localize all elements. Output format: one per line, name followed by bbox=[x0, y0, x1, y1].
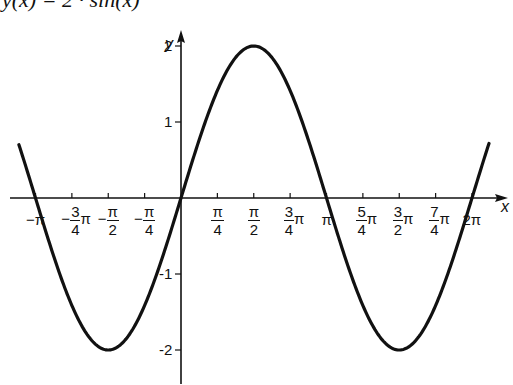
x-tick-label: 74π bbox=[429, 204, 450, 237]
x-tick-label: 34π bbox=[284, 204, 305, 237]
y-tick-label: -2 bbox=[159, 342, 172, 357]
x-axis-label: x bbox=[501, 198, 509, 216]
y-tick-label: 1 bbox=[164, 114, 172, 129]
x-tick-label: π2 bbox=[248, 204, 260, 237]
x-tick-label: −34π bbox=[61, 204, 90, 237]
x-tick-label: −π bbox=[26, 212, 45, 227]
x-tick-label: π bbox=[322, 212, 332, 227]
plot-area bbox=[0, 0, 513, 385]
x-tick-label: −π4 bbox=[134, 204, 155, 237]
y-tick-label: -1 bbox=[159, 266, 172, 281]
x-tick-label: −π2 bbox=[98, 204, 119, 237]
y-axis-label: y bbox=[165, 35, 173, 53]
x-tick-label: 32π bbox=[393, 204, 414, 237]
x-tick-label: 2π bbox=[463, 212, 482, 227]
x-tick-label: 54π bbox=[356, 204, 377, 237]
x-tick-label: π4 bbox=[211, 204, 223, 237]
